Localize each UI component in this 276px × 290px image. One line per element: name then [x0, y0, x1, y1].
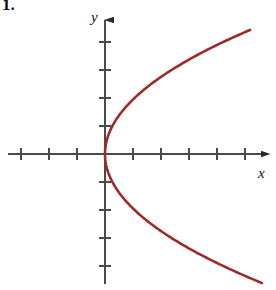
x-axis-label: x [257, 165, 265, 181]
coordinate-plot: y x [0, 0, 276, 290]
y-axis-label: y [89, 9, 98, 25]
figure-container: 1. [0, 0, 276, 290]
parabola-curve [105, 30, 262, 283]
